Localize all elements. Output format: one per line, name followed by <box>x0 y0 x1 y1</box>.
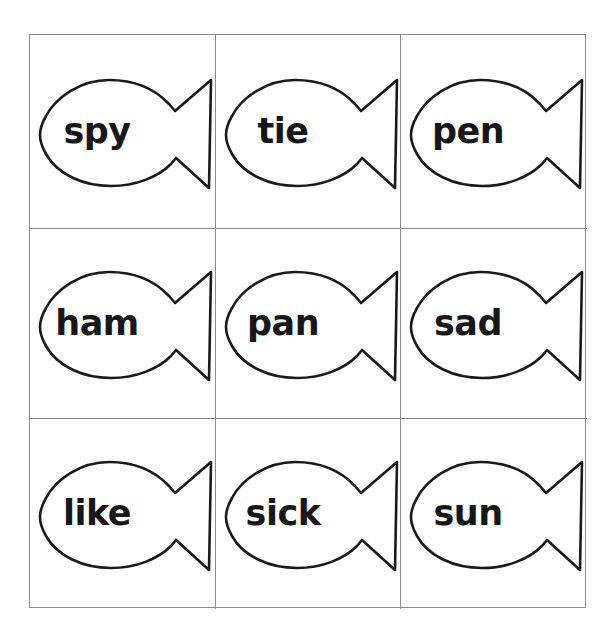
card-cell-ham[interactable]: ham <box>30 229 216 419</box>
card-cell-spy[interactable]: spy <box>30 35 216 229</box>
card-cell-sun[interactable]: sun <box>401 419 587 609</box>
card-cell-sick[interactable]: sick <box>216 419 401 609</box>
fish-word-label: sick <box>221 496 345 531</box>
fish-outline-icon <box>35 454 218 574</box>
fish-word-label: spy <box>35 113 159 148</box>
fish-shape-like: like <box>35 454 218 574</box>
fish-shape-pen: pen <box>406 72 589 192</box>
fish-shape-pan: pan <box>221 264 404 384</box>
card-cell-pen[interactable]: pen <box>401 35 587 229</box>
fish-shape-sad: sad <box>406 264 589 384</box>
worksheet-page: spy tie pen <box>0 0 616 640</box>
card-cell-like[interactable]: like <box>30 419 216 609</box>
fish-word-label: pen <box>406 113 530 148</box>
fish-outline-icon <box>221 264 404 384</box>
fish-shape-spy: spy <box>35 72 218 192</box>
fish-shape-sun: sun <box>406 454 589 574</box>
fish-word-label: sun <box>406 496 530 531</box>
fish-word-label: pan <box>221 305 345 340</box>
fish-word-label: like <box>35 496 159 531</box>
fish-outline-icon <box>221 72 404 192</box>
card-grid: spy tie pen <box>29 34 586 608</box>
fish-word-label: ham <box>35 305 159 340</box>
fish-outline-icon <box>35 264 218 384</box>
fish-shape-sick: sick <box>221 454 404 574</box>
fish-outline-icon <box>221 454 404 574</box>
fish-shape-ham: ham <box>35 264 218 384</box>
fish-outline-icon <box>406 72 589 192</box>
card-cell-sad[interactable]: sad <box>401 229 587 419</box>
fish-word-label: tie <box>221 113 345 148</box>
fish-word-label: sad <box>406 305 530 340</box>
fish-outline-icon <box>35 72 218 192</box>
card-cell-pan[interactable]: pan <box>216 229 401 419</box>
fish-shape-tie: tie <box>221 72 404 192</box>
card-cell-tie[interactable]: tie <box>216 35 401 229</box>
fish-outline-icon <box>406 454 589 574</box>
fish-outline-icon <box>406 264 589 384</box>
